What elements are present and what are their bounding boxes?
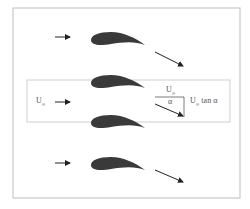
alpha-label: α — [168, 97, 172, 106]
u-tan-alpha-label: U∞ tan α — [190, 96, 217, 107]
u-inf-top-label: U∞ — [166, 85, 175, 96]
outflow-arrow-3 — [155, 170, 183, 182]
airfoil-2 — [91, 75, 145, 88]
airfoil-4 — [91, 157, 145, 170]
airfoil-1 — [91, 32, 145, 45]
outflow-arrow-1 — [155, 52, 183, 66]
u-inf-label: U∞ — [36, 96, 45, 107]
